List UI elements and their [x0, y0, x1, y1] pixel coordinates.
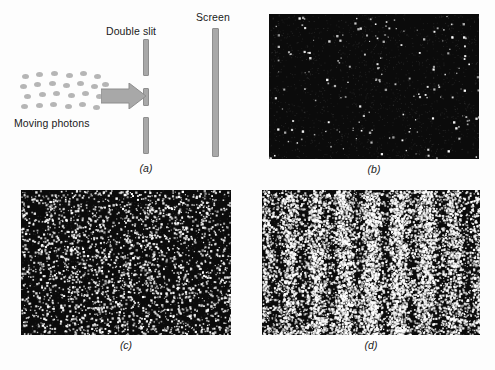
photon-dot — [49, 81, 56, 86]
photon-dot — [66, 73, 73, 78]
photon-dot — [36, 103, 43, 108]
photon-dot — [24, 94, 31, 99]
photon-dot — [68, 93, 75, 98]
barrier-segment-top — [143, 39, 149, 76]
photon-dot — [36, 72, 43, 77]
photon-dot — [34, 82, 41, 87]
screen-label: Screen — [196, 11, 230, 23]
photon-dot — [50, 102, 57, 107]
panel-c-canvas — [21, 190, 231, 335]
photon-dot — [20, 84, 27, 89]
photon-dot — [79, 102, 86, 107]
photon-dot — [77, 81, 84, 86]
caption-d: (d) — [351, 339, 391, 351]
photon-dot — [22, 74, 29, 79]
photon-dot — [82, 91, 89, 96]
detection-screen — [212, 28, 219, 157]
photon-dot — [39, 92, 46, 97]
beam-direction-arrow — [101, 83, 146, 109]
panel-c-speckle — [21, 190, 231, 335]
panel-b-speckle — [269, 14, 479, 159]
photon-dot — [65, 104, 72, 109]
photon-dot — [53, 91, 60, 96]
photon-dot — [94, 74, 101, 79]
double-slit-label: Double slit — [106, 25, 156, 37]
double-slit-figure: Double slit Screen Moving photons (a) (b… — [0, 0, 495, 370]
photon-cloud — [20, 70, 108, 116]
panel-b-canvas — [269, 14, 479, 159]
photon-dot — [93, 105, 100, 110]
photon-dot — [51, 71, 58, 76]
panel-d-canvas — [262, 190, 480, 335]
caption-b: (b) — [354, 163, 394, 175]
panel-d-speckle — [262, 190, 480, 335]
photon-dot — [63, 83, 70, 88]
moving-photons-label: Moving photons — [14, 117, 90, 129]
photon-dot — [21, 104, 28, 109]
photon-dot — [80, 71, 87, 76]
caption-c: (c) — [106, 339, 146, 351]
barrier-segment-bottom — [143, 117, 149, 154]
photon-dot — [91, 84, 98, 89]
panel-a-schematic: Double slit Screen Moving photons — [0, 0, 250, 182]
caption-a: (a) — [126, 162, 166, 174]
